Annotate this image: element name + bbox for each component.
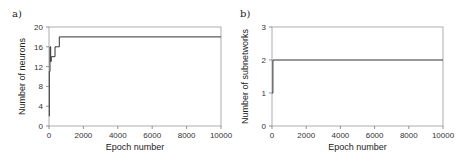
x-tick-label: 4000 bbox=[109, 131, 127, 140]
panel-label: a) bbox=[12, 8, 22, 19]
data-line bbox=[49, 37, 221, 116]
y-tick-label: 20 bbox=[34, 23, 43, 32]
x-tick-label: 10000 bbox=[210, 131, 233, 140]
x-axis-label: Epoch number bbox=[106, 142, 165, 152]
y-tick-label: 16 bbox=[34, 43, 43, 52]
x-tick-label: 8000 bbox=[400, 131, 418, 140]
x-tick-label: 8000 bbox=[178, 131, 196, 140]
y-tick-label: 2 bbox=[262, 56, 267, 65]
y-tick-label: 12 bbox=[34, 63, 43, 72]
data-line bbox=[272, 60, 443, 93]
plot-frame bbox=[49, 27, 221, 126]
x-tick-label: 2000 bbox=[297, 131, 315, 140]
y-axis-label: Number of subnetworks bbox=[240, 28, 250, 124]
x-tick-label: 2000 bbox=[75, 131, 93, 140]
x-tick-label: 6000 bbox=[143, 131, 161, 140]
y-tick-label: 4 bbox=[39, 102, 44, 111]
y-tick-label: 3 bbox=[262, 23, 267, 32]
x-tick-label: 4000 bbox=[332, 131, 350, 140]
y-axis-label: Number of neurons bbox=[17, 37, 27, 115]
x-tick-label: 6000 bbox=[366, 131, 384, 140]
y-tick-label: 0 bbox=[39, 122, 44, 131]
figure: a)0200040006000800010000048121620Epoch n… bbox=[0, 0, 465, 157]
x-tick-label: 10000 bbox=[432, 131, 455, 140]
chart-panel-a: a)0200040006000800010000048121620Epoch n… bbox=[12, 8, 233, 152]
plot-frame bbox=[272, 27, 443, 126]
x-tick-label: 0 bbox=[270, 131, 275, 140]
chart-panel-b: b)02000400060008000100000123Epoch number… bbox=[240, 8, 455, 152]
y-tick-label: 0 bbox=[262, 122, 267, 131]
y-tick-label: 8 bbox=[39, 82, 44, 91]
x-tick-label: 0 bbox=[47, 131, 52, 140]
x-axis-label: Epoch number bbox=[328, 142, 387, 152]
y-tick-label: 1 bbox=[262, 89, 267, 98]
panel-label: b) bbox=[240, 8, 250, 19]
